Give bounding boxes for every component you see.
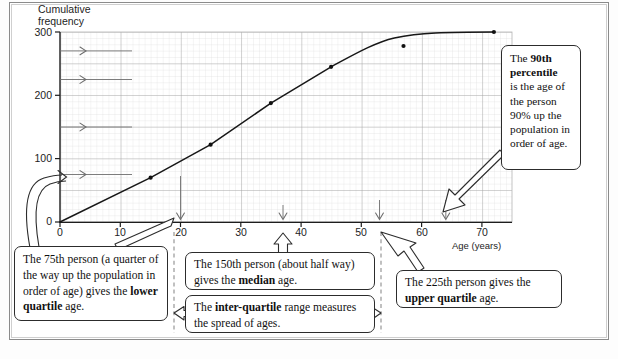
x-tick-label-20: 20 <box>168 226 194 238</box>
callout-percentile-text-b: 90th <box>530 52 551 64</box>
x-tick-label-60: 60 <box>409 226 435 238</box>
x-tick-label-50: 50 <box>348 226 374 238</box>
callout-percentile-text-c: percentile <box>510 66 557 78</box>
y-tick-label-300: 300 <box>22 26 52 38</box>
callout-lower-quartile-text-c: age. <box>62 300 84 313</box>
callout-upper-quartile: The 225th person gives the upper quartil… <box>396 270 562 308</box>
x-tick-label-10: 10 <box>107 226 133 238</box>
y-tick-label-100: 100 <box>22 152 52 164</box>
callout-lower-quartile: The 75th person (a quarter of the way up… <box>14 246 168 321</box>
y-axis-title-line1: Cumulative <box>38 4 91 16</box>
callout-upper-quartile-text-a: The 225th person gives the <box>405 276 531 289</box>
callout-percentile-text-a: The <box>510 52 530 64</box>
callout-upper-quartile-text-c: age. <box>477 292 499 305</box>
callout-percentile-text-d: is the age of the person 90% up the popu… <box>510 80 570 149</box>
y-tick-label-200: 200 <box>22 89 52 101</box>
callout-inter-quartile-range: The inter-quartile range measures the sp… <box>185 295 375 333</box>
leader-upper-quartile <box>381 232 424 272</box>
callout-upper-quartile-text-b: upper quartile <box>405 292 477 305</box>
x-tick-label-30: 30 <box>228 226 254 238</box>
callout-median-text-b: median <box>238 274 275 287</box>
x-tick-label-70: 70 <box>469 226 495 238</box>
callout-median: The 150th person (about half way) gives … <box>185 252 375 290</box>
x-axis-title: Age (years) <box>452 240 501 251</box>
x-tick-label-40: 40 <box>288 226 314 238</box>
callout-90th-percentile: The 90th percentile is the age of the pe… <box>501 45 581 170</box>
callout-median-text-c: age. <box>275 274 297 287</box>
page-root: Cumulative frequency 300 200 100 0 0 10 … <box>0 0 618 359</box>
callout-iqr-text-a: The <box>194 301 215 314</box>
x-tick-label-0: 0 <box>47 226 73 238</box>
callout-iqr-text-b: inter-quartile <box>215 301 282 314</box>
